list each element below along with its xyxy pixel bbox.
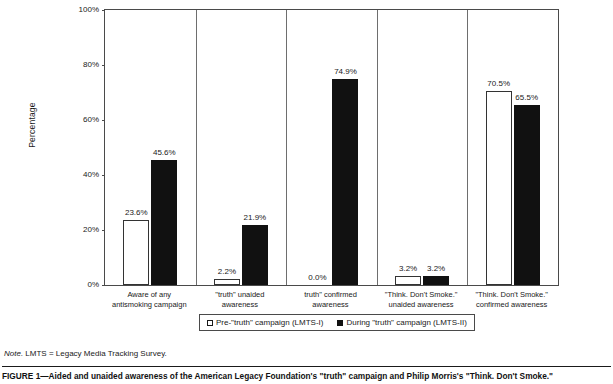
- legend-swatch-during-icon: [337, 320, 343, 326]
- x-axis-category-label-line: awareness: [285, 300, 376, 310]
- note-text: LMTS = Legacy Media Tracking Survey.: [25, 349, 166, 358]
- x-axis-category-label: "Think. Don't Smoke."confirmed awareness: [466, 290, 557, 309]
- bar-group: 0.0%74.9%: [286, 10, 377, 285]
- x-axis-category-label-line: "Think. Don't Smoke.": [466, 290, 557, 300]
- bar-during-campaign: [151, 160, 177, 285]
- figure-container: Percentage 0%20%40%60%80%100%23.6%45.6%2…: [0, 0, 613, 384]
- legend-item: During "truth" campaign (LMTS-II): [337, 318, 466, 327]
- x-axis-category-label-line: truth" confirmed: [285, 290, 376, 300]
- legend-item: Pre-"truth" campaign (LMTS-I): [207, 318, 323, 327]
- x-axis-category-label: "truth" unaidedawareness: [195, 290, 286, 309]
- legend-item-label: Pre-"truth" campaign (LMTS-I): [216, 318, 323, 327]
- bar-pre-campaign: [123, 220, 149, 285]
- plot-area: 0%20%40%60%80%100%23.6%45.6%2.2%21.9%0.0…: [104, 9, 559, 286]
- x-axis-category-label-line: confirmed awareness: [466, 300, 557, 310]
- bar-value-label: 23.6%: [120, 209, 152, 217]
- bar-value-label: 45.6%: [148, 149, 180, 157]
- bar-group: 3.2%3.2%: [377, 10, 468, 285]
- x-axis-category-label-line: Aware of any: [104, 290, 195, 300]
- bar-value-label: 2.2%: [211, 268, 243, 276]
- bar-during-campaign: [514, 105, 540, 285]
- bar-during-campaign: [332, 79, 358, 285]
- bar-value-label: 3.2%: [420, 265, 452, 273]
- legend-item-label: During "truth" campaign (LMTS-II): [346, 318, 466, 327]
- y-axis-title: Percentage: [27, 65, 37, 185]
- bar-pre-campaign: [395, 276, 421, 285]
- legend-swatch-pre-icon: [207, 320, 213, 326]
- y-axis-tick-label: 80%: [29, 61, 105, 69]
- y-axis-tick-label: 100%: [29, 6, 105, 14]
- bar-during-campaign: [423, 276, 449, 285]
- x-axis-category-label-line: antismoking campaign: [104, 300, 195, 310]
- bar-group: 2.2%21.9%: [196, 10, 287, 285]
- x-axis-category-label: Aware of anyantismoking campaign: [104, 290, 195, 309]
- bar-value-label: 70.5%: [483, 80, 515, 88]
- bar-value-label: 21.9%: [239, 214, 271, 222]
- x-axis-category-label: "Think. Don't Smoke."unaided awareness: [376, 290, 467, 309]
- y-axis-tick-label: 60%: [29, 116, 105, 124]
- bar-during-campaign: [242, 225, 268, 285]
- y-axis-tick-label: 20%: [29, 226, 105, 234]
- figure-caption: FIGURE 1—Aided and unaided awareness of …: [2, 371, 611, 381]
- bar-value-label: 0.0%: [301, 274, 333, 282]
- x-axis-category-label-line: unaided awareness: [376, 300, 467, 310]
- y-axis-tick-label: 40%: [29, 171, 105, 179]
- bar-group: 70.5%65.5%: [467, 10, 558, 285]
- caption-divider: [2, 366, 611, 367]
- bar-pre-campaign: [486, 91, 512, 285]
- x-axis-category-label-line: awareness: [195, 300, 286, 310]
- plot-inner: 0%20%40%60%80%100%23.6%45.6%2.2%21.9%0.0…: [105, 10, 558, 285]
- x-axis-category-label-line: "truth" unaided: [195, 290, 286, 300]
- bar-pre-campaign: [214, 279, 240, 285]
- y-axis-tick-mark: [102, 285, 105, 286]
- note-prefix: Note.: [4, 349, 23, 358]
- chart-legend: Pre-"truth" campaign (LMTS-I)During "tru…: [199, 314, 475, 331]
- y-axis-tick-label: 0%: [29, 281, 105, 289]
- bar-group: 23.6%45.6%: [105, 10, 196, 285]
- x-axis-category-label: truth" confirmedawareness: [285, 290, 376, 309]
- bar-value-label: 74.9%: [329, 68, 361, 76]
- figure-note: Note. LMTS = Legacy Media Tracking Surve…: [4, 349, 167, 359]
- x-axis-category-labels: Aware of anyantismoking campaign"truth" …: [104, 290, 559, 314]
- x-axis-category-label-line: "Think. Don't Smoke.": [376, 290, 467, 300]
- bar-value-label: 65.5%: [511, 94, 543, 102]
